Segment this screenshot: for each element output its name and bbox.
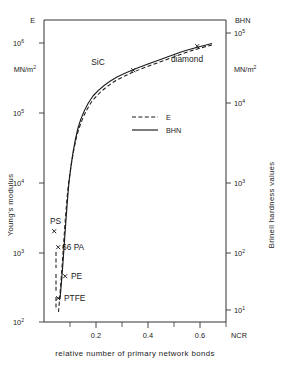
tick-label-right-3: 102	[234, 248, 245, 258]
tick-label-left-3: 103	[13, 248, 24, 258]
left-axis-end-label: E	[30, 16, 35, 25]
bottom-axis-end-label: NCR	[231, 331, 247, 340]
marker-pe	[63, 274, 67, 278]
right-axis-unit: MN/m2	[234, 64, 256, 74]
marker-66pa	[56, 245, 60, 249]
annotation-diamond: diamond	[171, 54, 203, 64]
annotation-ptfe: PTFE	[64, 293, 86, 303]
left-axis-unit: MN/m2	[14, 64, 36, 74]
tick-label-x-0: 0.2	[91, 331, 101, 340]
bottom-axis-tick-labels: 0.2 0.4 0.6	[91, 331, 205, 340]
right-axis-label: Brinell hardness values	[267, 162, 276, 249]
tick-label-left-4: 102	[13, 317, 24, 327]
annotations-group: SiC diamond PS 66 PA PE PTFE	[50, 54, 203, 303]
legend-label-bhn: BHN	[166, 126, 181, 135]
data-point-markers	[52, 44, 199, 300]
marker-ps	[52, 229, 56, 233]
left-axis-ticks	[39, 43, 44, 322]
legend: E BHN	[132, 113, 181, 135]
bottom-axis-ticks	[70, 322, 226, 328]
tick-label-left-0: 106	[13, 38, 24, 48]
chart-figure: 106 105 104 103 102 E MN/m2 Young's modu…	[0, 0, 287, 369]
tick-label-right-4: 101	[234, 305, 245, 315]
left-axis-label: Young's modulus	[6, 174, 15, 237]
annotation-sic: SiC	[91, 57, 105, 67]
right-axis-ticks	[226, 33, 231, 310]
tick-label-right-2: 103	[234, 178, 245, 188]
right-axis-end-label: BHN	[235, 16, 250, 25]
annotation-66pa: 66 PA	[62, 242, 85, 252]
chart-svg: 106 105 104 103 102 E MN/m2 Young's modu…	[0, 0, 287, 369]
tick-label-x-2: 0.6	[195, 331, 205, 340]
tick-label-x-1: 0.4	[143, 331, 153, 340]
annotation-pe: PE	[71, 271, 83, 281]
series-bhn-line	[60, 44, 212, 300]
legend-label-e: E	[166, 113, 171, 122]
tick-label-left-1: 105	[13, 108, 24, 118]
tick-label-right-0: 105	[234, 28, 245, 38]
annotation-ps: PS	[50, 216, 62, 226]
tick-label-right-1: 104	[234, 98, 245, 108]
bottom-axis-label: relative number of primary network bonds	[55, 349, 214, 358]
